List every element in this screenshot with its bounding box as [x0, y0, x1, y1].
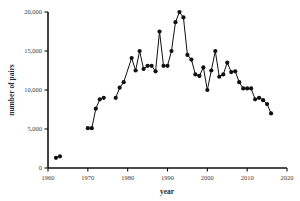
y-tick-label: 0: [39, 164, 42, 171]
data-point-marker: [114, 96, 118, 100]
data-point-marker: [201, 65, 205, 69]
data-point-marker: [58, 154, 62, 158]
data-point-marker: [229, 70, 233, 74]
y-axis-title: number of pairs: [7, 64, 16, 116]
data-point-marker: [237, 80, 241, 84]
data-point-marker: [98, 97, 102, 101]
data-point-marker: [177, 10, 181, 14]
data-point-marker: [54, 156, 58, 160]
data-point-marker: [209, 68, 213, 72]
x-tick-label: 2020: [281, 174, 294, 181]
line-chart: 05,00010,00015,00020,000 196019701980199…: [0, 0, 300, 201]
data-point-marker: [265, 102, 269, 106]
data-point-marker: [142, 67, 146, 71]
data-point-marker: [169, 49, 173, 53]
data-point-marker: [122, 80, 126, 84]
data-point-marker: [213, 49, 217, 53]
data-point-marker: [134, 68, 138, 72]
data-point-marker: [130, 56, 134, 60]
data-point-marker: [181, 15, 185, 19]
data-point-marker: [269, 111, 273, 115]
chart-container: 05,00010,00015,00020,000 196019701980199…: [0, 0, 300, 201]
data-point-marker: [217, 75, 221, 79]
series-markers-number-of-pairs: [54, 10, 273, 160]
data-point-marker: [153, 69, 157, 73]
data-point-marker: [205, 88, 209, 92]
data-point-marker: [165, 64, 169, 68]
data-point-marker: [221, 72, 225, 76]
data-point-marker: [261, 98, 265, 102]
x-tick-label: 1970: [81, 174, 94, 181]
data-point-marker: [189, 57, 193, 61]
data-point-marker: [102, 96, 106, 100]
data-point-marker: [197, 74, 201, 78]
data-point-marker: [253, 97, 257, 101]
data-point-marker: [241, 86, 245, 90]
data-point-marker: [225, 61, 229, 65]
y-tick-label: 15,000: [24, 47, 42, 54]
data-point-marker: [94, 107, 98, 111]
data-point-marker: [173, 20, 177, 24]
y-tick-label: 20,000: [24, 8, 42, 15]
x-tick-label: 1980: [121, 174, 134, 181]
x-axis-title: year: [160, 187, 175, 196]
data-point-marker: [145, 64, 149, 68]
series-line-number-of-pairs: [56, 12, 271, 158]
data-point-marker: [245, 86, 249, 90]
y-axis-ticks: 05,00010,00015,00020,000: [24, 8, 48, 171]
y-tick-label: 5,000: [27, 125, 42, 132]
x-tick-label: 1990: [161, 174, 174, 181]
data-point-marker: [86, 126, 90, 130]
x-axis-ticks: 1960197019801990200020102020: [42, 168, 294, 181]
data-point-marker: [149, 64, 153, 68]
x-tick-label: 1960: [42, 174, 55, 181]
data-point-marker: [185, 53, 189, 57]
data-point-marker: [161, 64, 165, 68]
data-point-marker: [118, 86, 122, 90]
x-tick-label: 2000: [201, 174, 214, 181]
data-point-marker: [157, 29, 161, 33]
y-tick-label: 10,000: [24, 86, 42, 93]
x-tick-label: 2010: [241, 174, 254, 181]
data-point-marker: [257, 96, 261, 100]
data-point-marker: [193, 72, 197, 76]
data-point-marker: [249, 86, 253, 90]
data-point-marker: [90, 126, 94, 130]
data-point-marker: [138, 49, 142, 53]
data-point-marker: [233, 69, 237, 73]
